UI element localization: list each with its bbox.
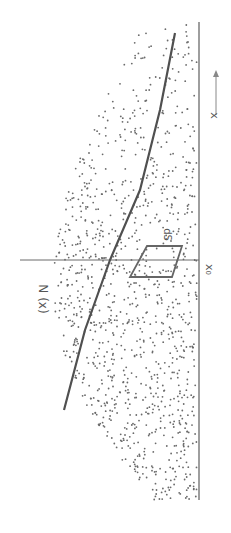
ds-label: dS [162,228,173,241]
diagram-figure: N (x) x x₀ dS [0,0,231,533]
diagram-canvas [0,0,231,533]
x-direction-arrow-icon [213,70,219,115]
x-axis-label: x [208,112,221,119]
x0-label: x₀ [203,264,216,275]
surface-element-ds [130,246,182,277]
n-of-x-label: N (x) [36,284,50,313]
